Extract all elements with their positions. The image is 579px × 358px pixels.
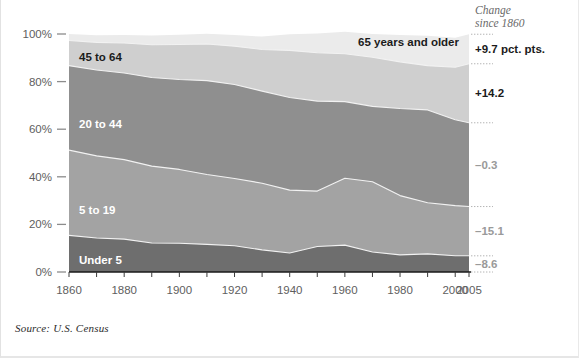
- change-value-65-years-and-older: +9.7 pct. pts.: [475, 43, 545, 55]
- change-value-5-to-19: –15.1: [475, 225, 504, 237]
- y-tick-label: 40%: [29, 171, 52, 183]
- x-tick-label: 1940: [277, 284, 303, 296]
- figure-page: Under 55 to 1920 to 4445 to 6465 years a…: [0, 0, 579, 358]
- band-label-65-years-and-older: 65 years and older: [358, 36, 460, 48]
- x-tick-label: 1980: [387, 284, 413, 296]
- change-since-1860-values: –8.6–15.1–0.3+14.2+9.7 pct. pts.: [475, 43, 545, 270]
- y-tick-label: 0%: [35, 266, 52, 278]
- y-tick-label: 60%: [29, 123, 52, 135]
- x-tick-label: 1920: [222, 284, 248, 296]
- y-tick-label: 80%: [29, 76, 52, 88]
- change-value-45-to-64: +14.2: [475, 87, 504, 99]
- band-label-45-to-64: 45 to 64: [79, 51, 122, 63]
- y-tick-label: 20%: [29, 218, 52, 230]
- change-value-20-to-44: –0.3: [475, 159, 497, 171]
- x-tick-label: 2005: [456, 284, 482, 296]
- band-label-20-to-44: 20 to 44: [79, 118, 122, 130]
- change-header-line1: Change: [475, 4, 511, 17]
- x-tick-label: 1880: [111, 284, 137, 296]
- band-label-under-5: Under 5: [79, 254, 122, 266]
- source-note: Source: U.S. Census: [15, 322, 109, 334]
- chart-bands: [69, 32, 469, 272]
- y-tick-label: 100%: [23, 28, 52, 40]
- stacked-area-chart: Under 55 to 1920 to 4445 to 6465 years a…: [1, 0, 579, 358]
- y-axis-tick-labels: 0%20%40%60%80%100%: [23, 28, 52, 278]
- change-header-line2: since 1860: [475, 17, 525, 29]
- change-value-under-5: –8.6: [475, 258, 497, 270]
- x-tick-label: 1860: [56, 284, 82, 296]
- x-tick-label: 1960: [332, 284, 358, 296]
- band-label-5-to-19: 5 to 19: [79, 204, 115, 216]
- x-axis-tick-labels: 186018801900192019401960198020002005: [56, 284, 482, 296]
- x-tick-label: 1900: [167, 284, 193, 296]
